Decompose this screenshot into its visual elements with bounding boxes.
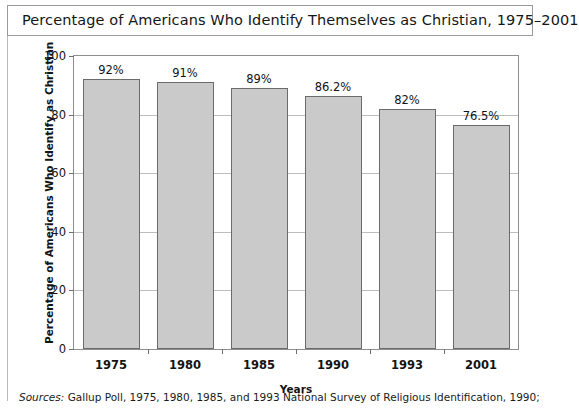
x-tick-label-1980: 1980 bbox=[169, 358, 201, 372]
bar-1993: 82% bbox=[379, 109, 436, 349]
y-tick-label: 20 bbox=[51, 283, 66, 297]
gridline bbox=[74, 115, 518, 116]
gridline bbox=[74, 290, 518, 291]
bar-value-label: 89% bbox=[246, 72, 272, 86]
y-tick-label: 40 bbox=[51, 225, 66, 239]
bar-value-label: 86.2% bbox=[315, 80, 352, 94]
x-tick-label-1985: 1985 bbox=[243, 358, 275, 372]
source-note: Sources: Gallup Poll, 1975, 1980, 1985, … bbox=[19, 391, 540, 403]
bar-value-label: 91% bbox=[172, 66, 198, 80]
x-tick-mark bbox=[444, 349, 445, 354]
gridline bbox=[74, 232, 518, 233]
bar-value-label: 76.5% bbox=[463, 109, 500, 123]
y-tick-mark bbox=[69, 349, 74, 350]
y-tick-mark bbox=[69, 56, 74, 57]
plot-area-wrapper: Percentage of Americans Who Identify as … bbox=[0, 36, 568, 376]
y-tick-label: 80 bbox=[51, 108, 66, 122]
y-tick-mark bbox=[69, 115, 74, 116]
source-text: Gallup Poll, 1975, 1980, 1985, and 1993 … bbox=[64, 391, 539, 403]
y-tick-label: 60 bbox=[51, 166, 66, 180]
bar-1990: 86.2% bbox=[305, 96, 362, 349]
x-tick-mark bbox=[148, 349, 149, 354]
x-tick-mark bbox=[222, 349, 223, 354]
x-tick-label-1990: 1990 bbox=[317, 358, 349, 372]
y-tick-mark bbox=[69, 290, 74, 291]
y-tick-mark bbox=[69, 232, 74, 233]
x-tick-label-1993: 1993 bbox=[391, 358, 423, 372]
x-tick-label-1975: 1975 bbox=[95, 358, 127, 372]
y-tick-label: 0 bbox=[59, 342, 66, 356]
x-tick-label-2001: 2001 bbox=[465, 358, 497, 372]
plot-frame: 02040608010092%197591%198089%198586.2%19… bbox=[73, 55, 519, 350]
source-label: Sources: bbox=[19, 391, 64, 403]
bar-1980: 91% bbox=[157, 82, 214, 349]
chart-title: Percentage of Americans Who Identify The… bbox=[22, 12, 579, 28]
x-tick-mark bbox=[296, 349, 297, 354]
y-tick-label: 100 bbox=[44, 49, 66, 63]
x-tick-mark bbox=[370, 349, 371, 354]
y-tick-mark bbox=[69, 173, 74, 174]
bar-value-label: 92% bbox=[98, 63, 124, 77]
chart-title-box: Percentage of Americans Who Identify The… bbox=[7, 5, 533, 36]
bar-1975: 92% bbox=[83, 79, 140, 349]
gridline bbox=[74, 173, 518, 174]
y-axis-title: Percentage of Americans Who Identify as … bbox=[43, 44, 55, 344]
bar-value-label: 82% bbox=[394, 93, 420, 107]
bar-1985: 89% bbox=[231, 88, 288, 349]
bar-2001: 76.5% bbox=[453, 125, 510, 349]
